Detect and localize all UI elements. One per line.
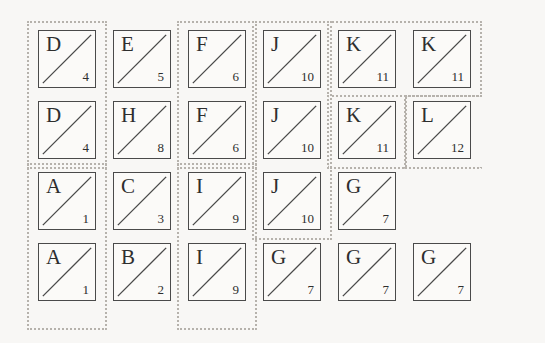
tile-number: 8 bbox=[158, 141, 165, 154]
tile-number: 2 bbox=[158, 283, 165, 296]
tile-number: 7 bbox=[458, 283, 465, 296]
tile-number: 6 bbox=[233, 70, 240, 83]
domino-tile-i-9[interactable]: I9 bbox=[188, 243, 246, 301]
tile-number: 1 bbox=[83, 212, 90, 225]
domino-tile-g-7[interactable]: G7 bbox=[338, 243, 396, 301]
tile-letter: D bbox=[46, 105, 61, 126]
tile-number: 9 bbox=[233, 283, 240, 296]
domino-tile-g-7[interactable]: G7 bbox=[338, 172, 396, 230]
tile-letter: F bbox=[196, 105, 208, 126]
tile-letter: D bbox=[46, 34, 61, 55]
domino-tile-b-2[interactable]: B2 bbox=[113, 243, 171, 301]
tile-letter: K bbox=[346, 34, 361, 55]
domino-tile-a-1[interactable]: A1 bbox=[38, 172, 96, 230]
tile-letter: J bbox=[271, 105, 279, 126]
domino-tile-c-3[interactable]: C3 bbox=[113, 172, 171, 230]
tile-number: 1 bbox=[83, 283, 90, 296]
domino-tile-j-10[interactable]: J10 bbox=[263, 172, 321, 230]
tile-letter: G bbox=[421, 247, 436, 268]
domino-tile-a-1[interactable]: A1 bbox=[38, 243, 96, 301]
domino-tile-g-7[interactable]: G7 bbox=[413, 243, 471, 301]
tile-number: 7 bbox=[308, 283, 315, 296]
domino-tile-k-11[interactable]: K11 bbox=[413, 30, 471, 88]
domino-tile-k-11[interactable]: K11 bbox=[338, 101, 396, 159]
tile-letter: K bbox=[421, 34, 436, 55]
tile-letter: F bbox=[196, 34, 208, 55]
tile-letter: A bbox=[46, 176, 61, 197]
tile-board: D4E5F6J10K11K11D4H8F6J10K11L12A1C3I9J10G… bbox=[0, 0, 545, 343]
domino-tile-l-12[interactable]: L12 bbox=[413, 101, 471, 159]
tile-letter: A bbox=[46, 247, 61, 268]
tile-number: 4 bbox=[83, 141, 90, 154]
domino-tile-j-10[interactable]: J10 bbox=[263, 30, 321, 88]
tile-number: 6 bbox=[233, 141, 240, 154]
domino-tile-f-6[interactable]: F6 bbox=[188, 30, 246, 88]
tile-number: 12 bbox=[451, 141, 464, 154]
tile-letter: C bbox=[121, 176, 135, 197]
tile-number: 10 bbox=[301, 212, 314, 225]
tile-letter: K bbox=[346, 105, 361, 126]
tile-letter: H bbox=[121, 105, 136, 126]
tile-letter: I bbox=[196, 247, 203, 268]
tile-letter: G bbox=[346, 247, 361, 268]
tile-letter: E bbox=[121, 34, 134, 55]
domino-tile-j-10[interactable]: J10 bbox=[263, 101, 321, 159]
tile-number: 11 bbox=[451, 70, 464, 83]
domino-tile-g-7[interactable]: G7 bbox=[263, 243, 321, 301]
tile-number: 4 bbox=[83, 70, 90, 83]
tile-letter: J bbox=[271, 34, 279, 55]
tile-number: 3 bbox=[158, 212, 165, 225]
domino-tile-d-4[interactable]: D4 bbox=[38, 101, 96, 159]
tile-number: 10 bbox=[301, 141, 314, 154]
tile-letter: B bbox=[121, 247, 135, 268]
domino-tile-e-5[interactable]: E5 bbox=[113, 30, 171, 88]
tile-letter: G bbox=[346, 176, 361, 197]
domino-tile-f-6[interactable]: F6 bbox=[188, 101, 246, 159]
tile-number: 9 bbox=[233, 212, 240, 225]
tile-number: 7 bbox=[383, 283, 390, 296]
tile-letter: G bbox=[271, 247, 286, 268]
domino-tile-i-9[interactable]: I9 bbox=[188, 172, 246, 230]
tile-letter: J bbox=[271, 176, 279, 197]
tile-number: 11 bbox=[376, 70, 389, 83]
domino-tile-k-11[interactable]: K11 bbox=[338, 30, 396, 88]
tile-letter: I bbox=[196, 176, 203, 197]
domino-tile-h-8[interactable]: H8 bbox=[113, 101, 171, 159]
tile-number: 11 bbox=[376, 141, 389, 154]
tile-number: 7 bbox=[383, 212, 390, 225]
tile-number: 10 bbox=[301, 70, 314, 83]
domino-tile-d-4[interactable]: D4 bbox=[38, 30, 96, 88]
tile-letter: L bbox=[421, 105, 434, 126]
tile-number: 5 bbox=[158, 70, 165, 83]
